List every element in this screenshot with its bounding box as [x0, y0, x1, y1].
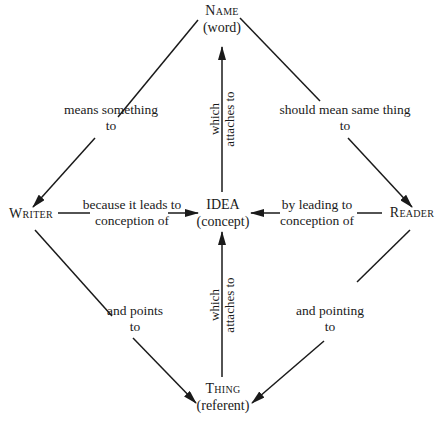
node-writer: Writer: [2, 205, 60, 222]
label-writer-thing: and points to: [80, 303, 190, 335]
node-reader: Reader: [382, 204, 442, 221]
node-idea-subtitle: (concept): [190, 213, 256, 230]
edge-reader-thing-upper: [357, 230, 410, 282]
label-reader-thing: and pointing to: [280, 303, 380, 335]
node-thing-title: Thing: [184, 380, 262, 397]
label-reader-idea: by leading to conception of: [262, 197, 372, 229]
edge-reader-thing-lower: [252, 341, 324, 403]
node-thing-subtitle: (referent): [184, 397, 262, 414]
label-name-reader: should mean same thing to: [265, 102, 425, 134]
node-idea-title: IDEA: [190, 196, 256, 213]
semantic-diagram: Name (word) IDEA (concept) Thing (refere…: [0, 0, 443, 423]
node-name: Name (word): [186, 2, 258, 36]
node-idea: IDEA (concept): [190, 196, 256, 230]
label-name-writer: means something to: [56, 102, 166, 134]
node-thing: Thing (referent): [184, 380, 262, 414]
label-thing-idea: which attaches to: [207, 255, 237, 355]
label-writer-idea: because it leads to conception of: [72, 197, 192, 229]
label-idea-name: which attaches to: [207, 69, 237, 169]
node-name-subtitle: (word): [186, 19, 258, 36]
node-name-title: Name: [186, 2, 258, 19]
